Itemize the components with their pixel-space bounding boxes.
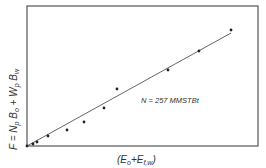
fit-line [27,33,231,146]
data-point [32,143,35,146]
data-point [47,135,50,138]
data-point [198,50,201,53]
annotation: N = 257 MMSTBt [141,96,200,105]
svg-text:F = Np Bo + Wp Bw: F = Np Bo + Wp Bw [8,68,21,150]
svg-text:(Eo+Ef,w): (Eo+Ef,w) [117,154,156,166]
data-point [66,129,69,132]
data-point [83,121,86,124]
plot-frame [27,6,258,146]
chart: N = 257 MMSTBt (Eo+Ef,w) F = Np Bo + Wp … [0,0,266,168]
data-point [103,107,106,110]
data-point [230,29,233,32]
x-axis-label: (Eo+Ef,w) [117,154,156,166]
data-point [167,69,170,72]
data-point [36,141,39,144]
data-point [26,145,29,148]
data-point [116,88,119,91]
y-axis-label: F = Np Bo + Wp Bw [8,68,21,150]
